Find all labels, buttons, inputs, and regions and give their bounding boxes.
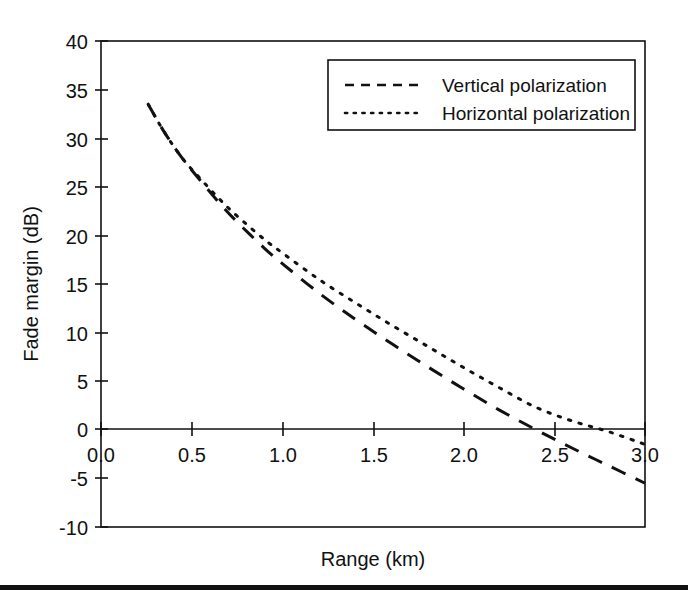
x-tick-label-0: 0.0 [87, 444, 115, 466]
x-tick-label-3_0: 3.0 [631, 444, 659, 466]
figure-container: 40 35 30 25 20 15 10 5 0 -5 -10 0.0 0.5 … [0, 0, 688, 596]
chart-legend: Vertical polarization Horizontal polariz… [328, 60, 635, 130]
y-tick-label-minus5: -5 [70, 468, 88, 490]
y-tick-label-10: 10 [66, 323, 88, 345]
fade-margin-chart: 40 35 30 25 20 15 10 5 0 -5 -10 0.0 0.5 … [0, 0, 688, 596]
y-tick-label-20: 20 [66, 226, 88, 248]
series-line-vertical-polarization [148, 104, 645, 483]
x-tick-label-0_5: 0.5 [178, 444, 206, 466]
y-tick-label-40: 40 [66, 31, 88, 53]
y-tick-label-30: 30 [66, 129, 88, 151]
y-tick-label-minus10: -10 [59, 517, 88, 539]
y-tick-label-15: 15 [66, 274, 88, 296]
x-tick-label-2_5: 2.5 [541, 444, 569, 466]
legend-label-horizontal: Horizontal polarization [442, 103, 630, 124]
y-tick-label-25: 25 [66, 177, 88, 199]
x-axis-title: Range (km) [321, 548, 425, 570]
y-tick-label-5: 5 [77, 371, 88, 393]
x-tick-label-2_0: 2.0 [450, 444, 478, 466]
y-axis-title: Fade margin (dB) [20, 206, 42, 362]
x-tick-label-1_0: 1.0 [269, 444, 297, 466]
bottom-divider-rule [0, 585, 688, 590]
y-tick-label-0: 0 [77, 419, 88, 441]
legend-label-vertical: Vertical polarization [442, 75, 607, 96]
series-line-horizontal-polarization [148, 104, 645, 444]
y-tick-label-35: 35 [66, 80, 88, 102]
x-tick-label-1_5: 1.5 [360, 444, 388, 466]
